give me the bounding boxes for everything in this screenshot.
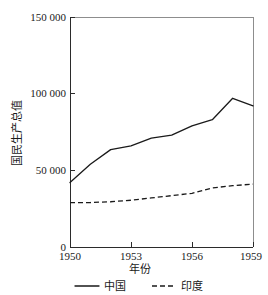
y-tick-label-100000: 100 000: [30, 87, 66, 99]
legend-label-india: 印度: [181, 279, 203, 293]
chart-container: 150 000 100 000 50 000 0 1950 1953 1956 …: [0, 0, 268, 295]
y-axis-tick-labels: 150 000 100 000 50 000 0: [30, 11, 66, 253]
x-tick-label-1956: 1956: [181, 250, 204, 262]
x-axis-title: 年份: [129, 262, 151, 276]
legend-label-china: 中国: [104, 280, 126, 293]
line-chart: 150 000 100 000 50 000 0 1950 1953 1956 …: [0, 0, 268, 295]
y-tick-label-50000: 50 000: [36, 164, 67, 176]
x-axis-ticks: [70, 242, 253, 247]
axes: [70, 17, 253, 247]
data-series: [70, 98, 253, 202]
x-tick-label-1959: 1959: [240, 250, 263, 262]
x-axis-tick-labels: 1950 1953 1956 1959: [59, 250, 263, 262]
series-line-china: [70, 98, 253, 182]
series-line-india: [70, 184, 253, 202]
y-tick-label-150000: 150 000: [30, 11, 66, 23]
y-axis-ticks: [70, 17, 75, 247]
x-tick-label-1953: 1953: [120, 250, 143, 262]
x-tick-label-1950: 1950: [59, 250, 82, 262]
plot-frame: [70, 17, 253, 247]
chart-legend: 中国 印度: [75, 279, 203, 293]
y-axis-title: 国民生产总值: [10, 100, 24, 166]
